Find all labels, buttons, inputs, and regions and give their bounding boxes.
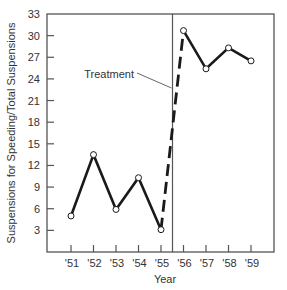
line-chart: 3691215182124273033 '51'52'53'54'55'56'5… xyxy=(0,0,287,290)
y-tick-label: 6 xyxy=(34,203,40,215)
treatment-pointer xyxy=(137,73,172,88)
y-tick-label: 12 xyxy=(28,159,40,171)
treatment-label: Treatment xyxy=(84,68,134,80)
y-tick-label: 27 xyxy=(28,51,40,63)
y-tick-label: 15 xyxy=(28,138,40,150)
x-axis: '51'52'53'54'55'56'57'58'59 xyxy=(65,245,259,269)
data-point-marker xyxy=(136,175,142,181)
y-tick-label: 18 xyxy=(28,116,40,128)
data-point-marker xyxy=(91,152,97,158)
plot-border xyxy=(47,14,274,252)
x-axis-title: Year xyxy=(154,273,177,285)
plot-frame xyxy=(47,14,274,252)
y-tick-label: 30 xyxy=(28,30,40,42)
x-tick-label: '56 xyxy=(177,257,191,269)
x-tick-label: '59 xyxy=(245,257,259,269)
y-axis: 3691215182124273033 xyxy=(28,8,54,236)
x-tick-label: '58 xyxy=(222,257,236,269)
x-tick-label: '51 xyxy=(65,257,79,269)
x-tick-label: '54 xyxy=(132,257,146,269)
data-point-marker xyxy=(158,227,164,233)
y-tick-label: 33 xyxy=(28,8,40,20)
x-tick-label: '52 xyxy=(87,257,101,269)
data-point-marker xyxy=(203,66,209,72)
y-tick-label: 24 xyxy=(28,73,40,85)
y-axis-title: Suspensions for Speeding/Total Suspensio… xyxy=(5,22,17,243)
data-point-marker xyxy=(113,206,119,212)
x-tick-label: '53 xyxy=(110,257,124,269)
data-point-marker xyxy=(248,58,254,64)
data-point-marker xyxy=(181,28,187,34)
post-treatment-line xyxy=(184,31,252,69)
data-point-marker xyxy=(68,213,74,219)
x-tick-label: '55 xyxy=(155,257,169,269)
data-series xyxy=(68,28,254,233)
y-tick-label: 3 xyxy=(34,224,40,236)
pre-treatment-line xyxy=(71,155,161,230)
data-point-marker xyxy=(226,45,232,51)
x-tick-label: '57 xyxy=(200,257,214,269)
y-tick-label: 21 xyxy=(28,95,40,107)
y-tick-label: 9 xyxy=(34,181,40,193)
